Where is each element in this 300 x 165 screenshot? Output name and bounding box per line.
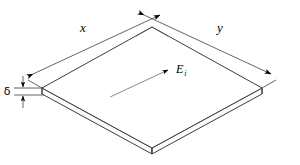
plate-diagram-figure: x y δ Ei [0, 0, 300, 165]
extension-line-y-right [262, 80, 276, 88]
plate-body [42, 27, 262, 154]
diagram-canvas: x y δ Ei [0, 0, 300, 165]
extension-line-x-left [28, 80, 42, 88]
label-incident-field-main: E [175, 62, 184, 76]
label-length-x: x [79, 20, 86, 35]
plate-top-face [42, 27, 262, 148]
label-length-y: y [215, 20, 223, 35]
label-incident-field-subscript: i [184, 69, 186, 78]
dimension-delta: δ [4, 76, 44, 108]
label-thickness-delta: δ [4, 85, 11, 98]
